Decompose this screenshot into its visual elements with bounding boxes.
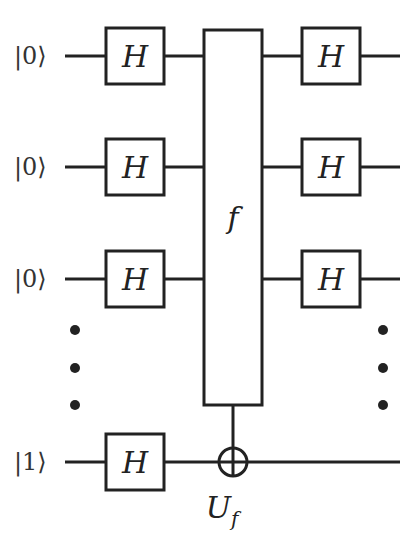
hadamard-label: H (317, 262, 345, 297)
ellipsis-dot (70, 325, 80, 335)
hadamard-label: H (121, 445, 149, 480)
hadamard-gate: H (302, 251, 360, 307)
ancilla-ket: |1⟩ (14, 448, 47, 477)
input-states: |0⟩ |0⟩ |0⟩ |1⟩ (14, 42, 47, 477)
quantum-circuit-diagram: |0⟩ |0⟩ |0⟩ |1⟩ H H H H f U (0, 0, 416, 538)
hadamard-gate: H (106, 139, 164, 195)
hadamard-gate: H (106, 251, 164, 307)
oracle-name-label: Uf (206, 490, 242, 531)
input-ket-2: |0⟩ (14, 153, 47, 182)
input-ket-3: |0⟩ (14, 265, 47, 294)
hadamard-layer-1: H H H H (106, 28, 164, 490)
hadamard-gate: H (302, 28, 360, 84)
hadamard-label: H (121, 39, 149, 74)
ellipsis-left (70, 325, 80, 410)
input-ket-1: |0⟩ (14, 42, 47, 71)
hadamard-gate: H (106, 28, 164, 84)
ellipsis-dot (378, 363, 388, 373)
ellipsis-dot (378, 400, 388, 410)
hadamard-gate: H (106, 434, 164, 490)
hadamard-label: H (317, 150, 345, 185)
hadamard-layer-2: H H H (302, 28, 360, 307)
hadamard-label: H (317, 39, 345, 74)
ellipsis-right (378, 325, 388, 410)
cnot-target-icon (219, 448, 247, 476)
ellipsis-dot (70, 363, 80, 373)
hadamard-gate: H (302, 139, 360, 195)
ellipsis-dot (378, 325, 388, 335)
oracle-uf: f Uf (204, 30, 262, 531)
ellipsis-dot (70, 400, 80, 410)
hadamard-label: H (121, 150, 149, 185)
hadamard-label: H (121, 262, 149, 297)
